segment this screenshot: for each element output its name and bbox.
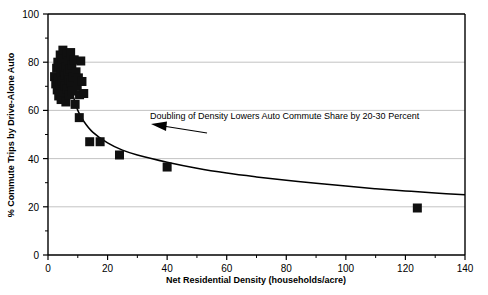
chart-figure: 020406080100120140 020406080100 Net Resi…	[0, 0, 488, 295]
x-axis-title: Net Residential Density (households/acre…	[166, 275, 346, 285]
y-axis-title: % Commute Trips by Drive-Alone Auto	[6, 52, 16, 217]
data-point-marker	[96, 137, 105, 146]
data-point-marker	[77, 77, 86, 86]
y-tick-label: 40	[28, 154, 40, 165]
y-tick-label: 80	[28, 57, 40, 68]
x-tick-label: 60	[221, 263, 233, 274]
x-tick-label: 40	[162, 263, 174, 274]
y-tick-label: 20	[28, 202, 40, 213]
data-point-marker	[413, 204, 422, 213]
data-point-marker	[71, 100, 80, 109]
x-tick-label: 140	[457, 263, 474, 274]
x-tick-label: 0	[45, 263, 51, 274]
y-tick-label: 100	[22, 9, 39, 20]
y-tick-label: 60	[28, 105, 40, 116]
data-point-marker	[85, 137, 94, 146]
scatter-chart: 020406080100120140 020406080100 Net Resi…	[0, 0, 488, 295]
annotation-label: Doubling of Density Lowers Auto Commute …	[150, 111, 420, 121]
data-point-marker	[163, 163, 172, 172]
x-tick-label: 100	[338, 263, 355, 274]
data-point-marker	[115, 150, 124, 159]
data-point-marker	[79, 89, 88, 98]
x-tick-label: 20	[102, 263, 114, 274]
x-tick-label: 120	[397, 263, 414, 274]
data-point-marker	[76, 56, 85, 65]
x-tick-label: 80	[281, 263, 293, 274]
data-point-marker	[75, 113, 84, 122]
y-tick-label: 0	[33, 250, 39, 261]
chart-background	[0, 0, 488, 295]
